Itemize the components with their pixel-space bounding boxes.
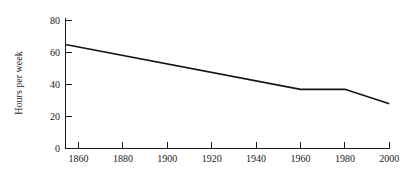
x-tick-label-2000: 2000: [379, 153, 399, 164]
y-tick-label-60: 60: [50, 47, 60, 58]
y-tick-label-20: 20: [50, 111, 60, 122]
chart-container: 80 60 40 20 0 1860 1880 1900 1920 1940 1…: [0, 0, 411, 180]
line-chart: 80 60 40 20 0 1860 1880 1900 1920 1940 1…: [0, 0, 411, 180]
y-tick-marks: [66, 21, 73, 149]
x-tick-label-1860: 1860: [69, 153, 89, 164]
y-axis-title: Hours per week: [13, 51, 24, 114]
y-tick-label-40: 40: [50, 79, 60, 90]
x-tick-label-1980: 1980: [335, 153, 355, 164]
y-tick-label-0: 0: [55, 143, 60, 154]
x-tick-marks: [79, 142, 390, 149]
x-tick-label-1940: 1940: [246, 153, 266, 164]
x-tick-label-1960: 1960: [291, 153, 311, 164]
x-tick-label-1920: 1920: [202, 153, 222, 164]
x-tick-label-1880: 1880: [113, 153, 133, 164]
y-tick-label-80: 80: [50, 15, 60, 26]
data-series-hours-per-week: [66, 45, 390, 104]
x-tick-label-1900: 1900: [157, 153, 177, 164]
